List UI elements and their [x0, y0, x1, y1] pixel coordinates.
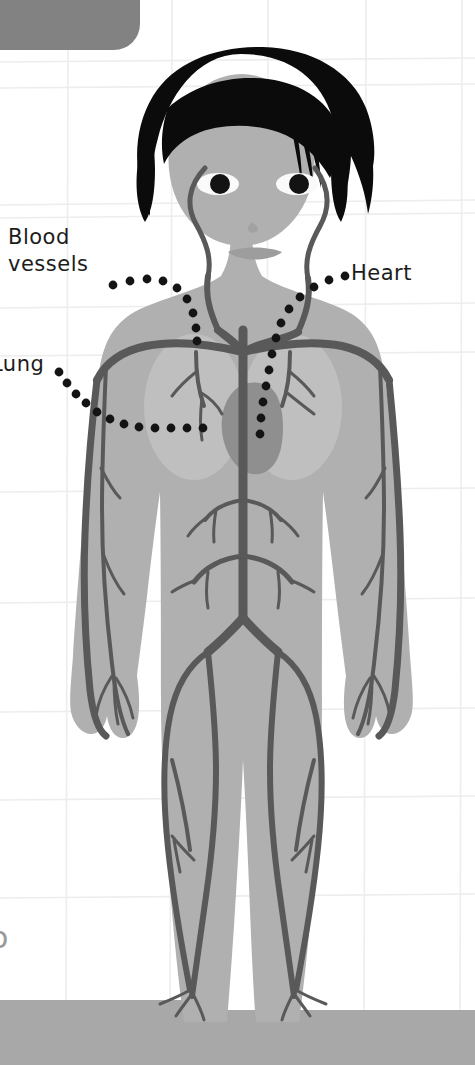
label-layer: Blood vessels Lung Heart o — [0, 0, 475, 1065]
corner-partial-glyph: o — [0, 920, 8, 955]
label-heart: Heart — [351, 260, 412, 287]
label-blood-vessels-line2: vessels — [8, 251, 88, 278]
label-blood-vessels: Blood vessels — [8, 224, 88, 278]
diagram-page: Blood vessels Lung Heart o — [0, 0, 475, 1065]
label-lung: Lung — [0, 351, 44, 378]
label-blood-vessels-line1: Blood — [8, 224, 88, 251]
